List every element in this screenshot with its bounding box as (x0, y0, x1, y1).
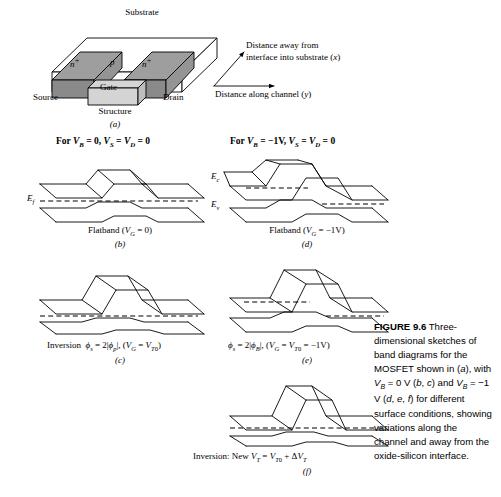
conduction-band-c (40, 276, 204, 314)
header-right-condition: For VB = −1V, VS = VD = 0 (230, 136, 335, 148)
source-label: Source (33, 93, 58, 103)
band-diagram-e-svg (222, 268, 392, 334)
band-diagram-d-svg (222, 158, 392, 224)
panel-c-letter: (c) (65, 355, 175, 365)
header-left-condition: For VB = 0, VS = VD = 0 (56, 136, 150, 148)
conduction-band-f (230, 386, 388, 430)
valence-band-e (230, 312, 388, 332)
panel-d-letter: (d) (245, 239, 369, 249)
conduction-band-d (224, 160, 388, 200)
band-diagram-e (222, 268, 392, 334)
structure-title: Structure (75, 107, 155, 117)
structure-panel-letter: (a) (75, 119, 155, 129)
nplus-drain-label: n+ (142, 57, 152, 70)
panel-d-caption: Flatband (VG = −1V) (245, 226, 369, 237)
x-axis-label-line2: interface into substrate (x) (246, 52, 340, 63)
x-axis-arrow (214, 52, 244, 86)
panel-f-caption: Inversion: New VT = VT0 + ΔVT (193, 452, 307, 463)
panel-b-letter: (b) (65, 239, 175, 249)
conduction-band-label-b: Ec (211, 172, 219, 183)
nplus-source-label: n+ (70, 57, 80, 70)
panel-e-letter: (e) (245, 355, 369, 365)
gate-top-face (88, 80, 146, 88)
substrate-label: Substrate (92, 8, 192, 18)
band-diagram-d (222, 158, 392, 224)
band-diagram-b (38, 160, 208, 222)
panel-f-letter: (f) (245, 466, 369, 476)
valence-band-f (230, 432, 388, 446)
band-diagram-f (222, 384, 392, 446)
x-axis-label-line1: Distance away from (246, 40, 318, 51)
band-diagram-c-svg (38, 272, 208, 334)
panel-b-caption: Flatband (VG = 0) (65, 226, 175, 237)
figure-caption: FIGURE 9.6 Three-dimensional sketches of… (374, 320, 492, 463)
valence-band-c (40, 318, 204, 334)
drain-label: Drain (163, 93, 184, 103)
valence-band-label-b: Ev (211, 200, 219, 211)
body-p-label: p (110, 58, 115, 68)
band-diagram-b-svg (38, 160, 208, 222)
conduction-band-b (40, 170, 204, 198)
y-axis-label: Distance along channel (y) (215, 89, 311, 100)
figure-number: FIGURE 9.6 (374, 321, 426, 332)
band-diagram-c (38, 272, 208, 334)
band-diagram-f-svg (222, 384, 392, 446)
valence-band-b (40, 202, 204, 222)
panel-c-caption: Inversion ϕs = 2|ϕp|, (VG = VT0) (47, 341, 161, 352)
fermi-level-label-b: Ef (27, 194, 34, 205)
valence-band-d (230, 200, 388, 222)
panel-e-caption: ϕs = 2|ϕB|, (VG = VT0 = −1V) (228, 341, 330, 352)
figure-caption-text: Three-dimensional sketches of band diagr… (374, 321, 492, 461)
conduction-band-e (230, 270, 388, 312)
gate-label: Gate (100, 83, 117, 93)
